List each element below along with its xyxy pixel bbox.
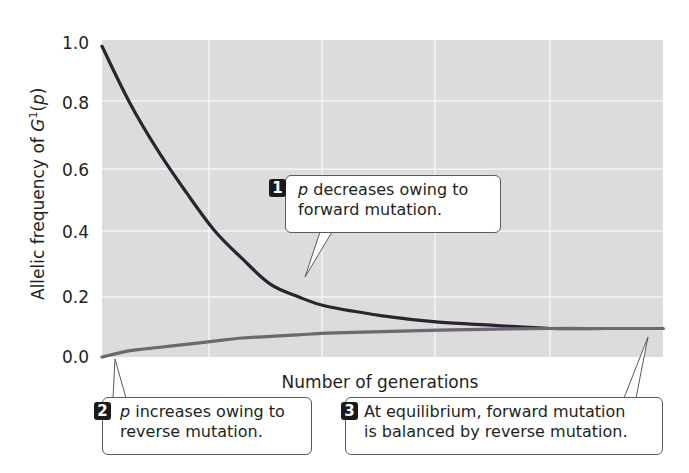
callout-3-line-1: At equilibrium, forward mutation [364,402,654,422]
y-tick: 0.8 [62,93,89,113]
callout-2-line-2: reverse mutation. [120,422,303,442]
callout-2: p increases owing to reverse mutation. [102,397,312,455]
callout-3-line-2: is balanced by reverse mutation. [364,422,654,442]
callout-1-badge: 1 [269,179,286,197]
callout-1-line-2: forward mutation. [298,200,492,220]
y-axis-title-prefix: Allelic frequency of [28,132,48,300]
y-tick-labels: 0.0 0.2 0.4 0.6 0.8 1.0 [62,33,89,367]
callout-1: p decreases owing to forward mutation. [285,175,501,233]
y-tick: 1.0 [62,33,89,53]
y-tick: 0.6 [62,160,89,180]
x-axis-title: Number of generations [282,372,479,392]
y-tick: 0.4 [62,222,89,242]
callout-3: At equilibrium, forward mutation is bala… [345,397,663,455]
y-axis-title-sup: 1 [27,112,40,119]
y-tick: 0.0 [62,347,89,367]
y-axis-title: Allelic frequency of G1(p) [27,88,48,300]
y-axis-title-paren: ( [28,105,48,112]
callout-1-line-1: p decreases owing to [298,180,492,200]
y-axis-title-var: p [28,94,48,106]
y-axis-title-paren-close: ) [28,88,48,95]
y-tick: 0.2 [62,287,89,307]
callout-2-line-1: p increases owing to [120,402,303,422]
callout-3-badge: 3 [341,402,358,420]
y-axis-title-gene: G [28,119,48,132]
callout-2-tail [113,359,126,398]
callout-2-badge: 2 [94,402,111,420]
